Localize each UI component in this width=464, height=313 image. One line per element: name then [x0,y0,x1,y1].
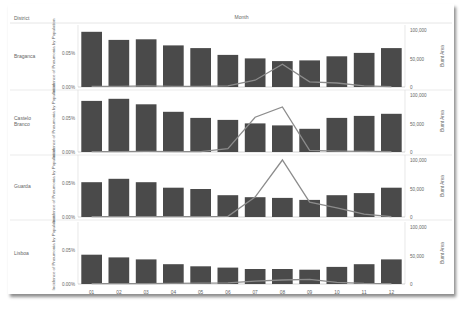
month-tick-label: 12 [389,290,395,295]
left-axis-title: Incidence of Pneumonia by Population [51,215,56,290]
bar[interactable] [163,112,184,152]
bar[interactable] [190,118,211,152]
bar[interactable] [272,61,293,87]
right-axis-title: Burnt Area [440,110,445,132]
right-tick-label: 100,000 [410,225,427,230]
left-tick-label: 0.05% [62,51,75,56]
right-tick-label: 50,000 [410,57,424,62]
bar[interactable] [109,40,130,87]
left-tick-label: 0.05% [62,116,75,121]
panel-lisboa [78,222,405,284]
bar[interactable] [109,257,130,284]
left-tick-label: 0.00% [62,282,75,287]
bar[interactable] [272,269,293,284]
panel-braganca [10,25,452,90]
bar[interactable] [354,53,375,87]
district-label: Braganca [14,53,36,59]
left-tick-label: 0.00% [62,215,75,220]
right-tick-label: 0 [410,150,413,155]
bar[interactable] [299,60,320,87]
bar[interactable] [136,39,157,87]
month-tick-label: 09 [307,290,313,295]
bar[interactable] [81,101,102,152]
bar[interactable] [299,270,320,284]
month-tick-label: 02 [116,290,122,295]
panel-castelo-branco [10,90,452,155]
bar[interactable] [327,118,348,152]
bar[interactable] [272,125,293,152]
month-tick-label: 08 [280,290,286,295]
column-header-label: Month [235,14,249,20]
bar[interactable] [190,189,211,217]
right-tick-label: 50,000 [410,254,424,259]
bar[interactable] [163,45,184,87]
right-tick-label: 100,000 [410,93,427,98]
left-tick-label: 0.05% [62,181,75,186]
left-axis-title: Incidence of Pneumonia by Population [51,83,56,158]
bar[interactable] [272,198,293,217]
bar[interactable] [381,188,402,217]
month-tick-label: 01 [89,290,95,295]
bar[interactable] [109,179,130,217]
right-axis-title: Burnt Area [440,45,445,67]
bar[interactable] [109,99,130,152]
right-tick-label: 100,000 [410,28,427,33]
row-header-label: District [14,15,30,21]
bar[interactable] [218,268,239,284]
month-tick-label: 07 [252,290,258,295]
left-tick-label: 0.00% [62,150,75,155]
bar[interactable] [190,266,211,284]
left-axis-title: Incidence of Pneumonia by Population [51,18,56,93]
bar[interactable] [218,195,239,217]
bar[interactable] [381,259,402,284]
right-tick-label: 0 [410,282,413,287]
right-axis-title: Burnt Area [440,175,445,197]
bar[interactable] [136,182,157,217]
bar[interactable] [299,129,320,152]
bar[interactable] [136,259,157,284]
left-tick-label: 0.00% [62,85,75,90]
month-tick-label: 10 [334,290,340,295]
bar[interactable] [218,120,239,152]
month-tick-label: 04 [171,290,177,295]
district-label: Lisboa [14,250,29,256]
month-tick-label: 11 [362,290,367,295]
bar[interactable] [245,123,266,152]
bar[interactable] [81,32,102,87]
month-tick-label: 03 [143,290,149,295]
right-tick-label: 50,000 [410,122,424,127]
month-tick-label: 06 [225,290,231,295]
chart-canvas: DistrictMonthBraganca0.00%0.05%Incidence… [0,0,464,313]
right-axis-title: Burnt Area [440,242,445,264]
bar[interactable] [163,264,184,284]
panel-guarda [10,155,452,220]
bar[interactable] [354,264,375,284]
left-axis-title: Incidence of Pneumonia by Population [51,148,56,223]
bar[interactable] [163,188,184,217]
district-label: Branco [14,121,30,127]
bar[interactable] [190,48,211,87]
right-tick-label: 0 [410,85,413,90]
bar[interactable] [245,197,266,217]
bar[interactable] [354,193,375,217]
bar[interactable] [381,48,402,87]
right-tick-label: 0 [410,215,413,220]
right-tick-label: 50,000 [410,187,424,192]
bar[interactable] [381,114,402,152]
month-tick-label: 05 [198,290,204,295]
district-label: Guarda [14,183,31,189]
bar[interactable] [81,255,102,284]
bar[interactable] [354,116,375,152]
bar[interactable] [218,55,239,87]
right-tick-label: 100,000 [410,158,427,163]
bar[interactable] [245,58,266,87]
left-tick-label: 0.05% [62,248,75,253]
bar[interactable] [136,104,157,152]
bar[interactable] [81,182,102,217]
